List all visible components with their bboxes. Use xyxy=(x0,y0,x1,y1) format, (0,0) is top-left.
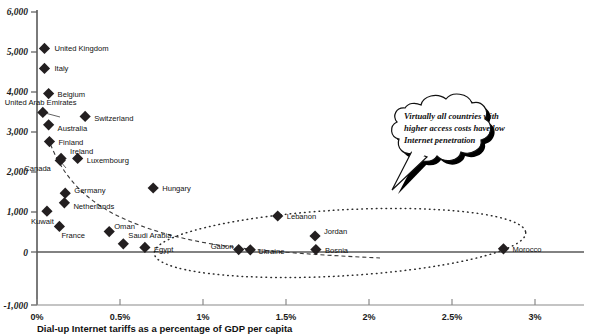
y-tick-label: 0 xyxy=(23,248,28,258)
callout-line: Virtually all countries with xyxy=(404,111,499,121)
data-point-label: Germany xyxy=(74,186,105,195)
data-point-label: Hungary xyxy=(162,184,191,193)
data-point-label: Canada xyxy=(24,164,51,173)
x-tick-label: 1% xyxy=(196,312,209,322)
x-tick-label: 3% xyxy=(528,312,541,322)
x-axis-title: Dial-up Internet tariffs as a percentage… xyxy=(37,323,293,334)
data-point: Morocco xyxy=(498,243,542,254)
data-point-label: Netherlands xyxy=(73,202,114,211)
scatter-plot: 6,000 5,000 4,000 3,000 2,000 1,000 0 -1… xyxy=(0,0,590,334)
data-point-label: Saudi Arabia xyxy=(128,231,172,240)
data-point-label: Australia xyxy=(58,124,88,133)
data-point-label: Ukraine xyxy=(258,247,284,256)
data-point-label: Oman xyxy=(114,222,135,231)
y-tick-label: 3,000 xyxy=(6,127,29,137)
data-point-label: Egypt xyxy=(154,245,174,254)
x-tick-label: 0.5% xyxy=(110,312,131,322)
callout-line: higher access costs have low xyxy=(404,123,505,133)
data-point-label: Bosnia xyxy=(325,246,349,255)
y-tick-label: 4,000 xyxy=(6,87,29,97)
y-tick-label: 1,000 xyxy=(7,207,29,217)
data-point-label: United Arab Emirates xyxy=(5,98,77,107)
data-point-label: United Kingdom xyxy=(54,44,108,53)
data-point: Ukraine xyxy=(245,244,285,256)
data-point-label: Switzerland xyxy=(94,114,133,123)
data-point-label: Jordan xyxy=(324,227,347,236)
data-point: Bosnia xyxy=(310,244,349,255)
data-point: Italy xyxy=(39,63,69,74)
data-point-label: Lebanon xyxy=(287,212,317,221)
data-point-label: Finland xyxy=(58,138,83,147)
data-point: Finland xyxy=(44,136,84,147)
data-point-label: Italy xyxy=(54,64,68,73)
data-point-label: Luxembourg xyxy=(87,156,129,165)
x-tick-label: 2% xyxy=(362,312,375,322)
data-point: Lebanon xyxy=(272,210,316,221)
data-point-label: Ireland xyxy=(70,147,93,156)
chart-container: 6,000 5,000 4,000 3,000 2,000 1,000 0 -1… xyxy=(0,0,590,334)
x-tick-label: 0% xyxy=(30,312,43,322)
y-tick-label: 5,000 xyxy=(7,47,29,57)
data-point-label: Morocco xyxy=(512,245,541,254)
data-point-label: Belgium xyxy=(58,90,85,99)
data-point-label: Kuwait xyxy=(31,217,55,226)
x-tick-label: 2.5% xyxy=(442,312,463,322)
y-tick-label: -1,000 xyxy=(3,301,28,311)
callout-line: Internet penetration xyxy=(403,135,476,145)
data-point: Hungary xyxy=(148,182,192,193)
data-point-label: Gabon xyxy=(211,242,234,251)
data-point-label: France xyxy=(61,231,85,240)
y-tick-label: 6,000 xyxy=(7,7,29,17)
x-tick-label: 1.5% xyxy=(276,312,297,322)
